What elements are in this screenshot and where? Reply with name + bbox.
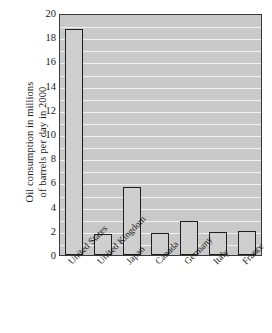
y-axis-tick-labels: 02468101214161820	[30, 14, 56, 256]
y-axis-tick-label: 0	[30, 251, 56, 262]
y-axis-tick-label: 6	[30, 178, 56, 189]
x-axis-tick-labels: United StatesUnited KingdomJapanCanadaGe…	[59, 256, 262, 330]
y-axis-tick-label: 8	[30, 154, 56, 165]
y-axis-tick-label: 2	[30, 227, 56, 238]
y-axis-tick-label: 20	[30, 9, 56, 20]
y-axis-tick-label: 12	[30, 106, 56, 117]
y-axis-tick-label: 4	[30, 202, 56, 213]
y-axis-tick-label: 18	[30, 33, 56, 44]
bar-series	[60, 15, 261, 255]
bar-chart-figure: Oil consumption in millions of barrels p…	[0, 0, 272, 333]
y-axis-tick-label: 16	[30, 57, 56, 68]
y-axis-tick-label: 14	[30, 81, 56, 92]
plot-area	[59, 14, 262, 256]
y-axis-tick-label: 10	[30, 130, 56, 141]
bar-united-states	[65, 29, 83, 255]
